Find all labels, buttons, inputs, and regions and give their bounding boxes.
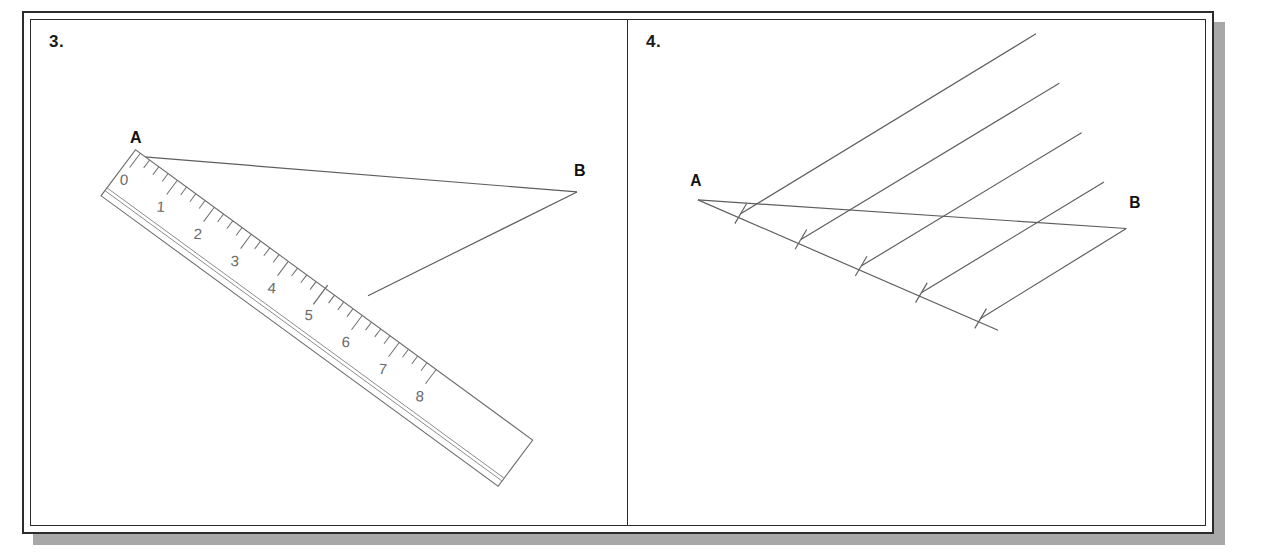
panel-4-label-a: A bbox=[690, 172, 701, 189]
panel-3-label-a: A bbox=[130, 129, 142, 146]
parallel-line-3 bbox=[861, 133, 1082, 266]
division-tick-marks bbox=[735, 204, 987, 329]
ruler-bevel-line-2 bbox=[105, 191, 502, 481]
ruler: 0 1 2 3 4 5 6 7 8 bbox=[101, 146, 535, 486]
ruler-number-6: 6 bbox=[341, 334, 351, 351]
parallel-line-4 bbox=[921, 182, 1104, 293]
panel-4-label-b: B bbox=[1129, 194, 1140, 211]
panel-3: 3. bbox=[31, 20, 627, 525]
panel-3-drawing: 0 1 2 3 4 5 6 7 8 A B bbox=[31, 20, 627, 525]
ruler-bevel-line-1 bbox=[107, 188, 504, 478]
panel-3-label-b: B bbox=[574, 162, 586, 179]
ruler-number-7: 7 bbox=[378, 361, 388, 378]
ruler-body bbox=[101, 150, 533, 486]
segment-ab bbox=[138, 156, 577, 192]
division-tick-4 bbox=[916, 283, 928, 303]
figure-inner-frame: 3. bbox=[30, 19, 1206, 526]
ruler-number-8: 8 bbox=[415, 388, 425, 405]
division-ray bbox=[698, 200, 998, 330]
ruler-number-1: 1 bbox=[156, 199, 166, 216]
panel-4: 4. bbox=[628, 20, 1205, 525]
parallel-line-5 bbox=[981, 229, 1127, 319]
ruler-number-5: 5 bbox=[304, 307, 314, 324]
ruler-number-2: 2 bbox=[193, 226, 203, 243]
ruler-number-0: 0 bbox=[119, 172, 129, 189]
ruler-number-3: 3 bbox=[230, 253, 240, 270]
division-tick-5 bbox=[975, 309, 987, 329]
panel-4-drawing: A B bbox=[628, 20, 1205, 525]
figure-outer-frame: 3. bbox=[22, 11, 1214, 534]
ruler-number-4: 4 bbox=[267, 280, 277, 297]
transversal-line-5-to-b bbox=[368, 192, 577, 296]
segment-ab bbox=[698, 200, 1126, 229]
